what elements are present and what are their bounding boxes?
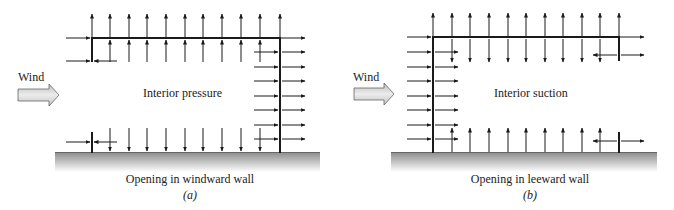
floor-arrows-a <box>110 128 260 151</box>
caption-b: Opening in leeward wall <box>460 172 600 187</box>
sublabel-a: (a) <box>170 188 210 203</box>
wind-arrow-icon-a <box>18 84 59 106</box>
ground-b <box>391 152 657 172</box>
floor-arrows-b <box>452 128 600 152</box>
caption-a: Opening in windward wall <box>120 172 260 187</box>
wind-label-a: Wind <box>18 70 44 85</box>
roof-uplift-arrows-a <box>92 14 280 38</box>
interior-roof-arrows-a <box>110 40 260 62</box>
wind-label-b: Wind <box>353 70 379 85</box>
ground-a <box>55 152 320 172</box>
interior-label-b: Interior suction <box>494 86 568 101</box>
wind-arrow-icon-b <box>354 83 394 105</box>
interior-label-a: Interior pressure <box>143 86 222 101</box>
sublabel-b: (b) <box>510 188 550 203</box>
